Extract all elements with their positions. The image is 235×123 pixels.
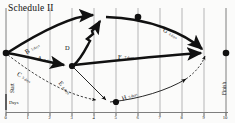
- node-day3: [69, 63, 75, 69]
- activity-duration-H: 5 days: [128, 92, 138, 99]
- activity-label-F: F7 days: [118, 46, 134, 62]
- axis-tick-4: 4: [93, 116, 95, 121]
- axis-tick-8: 8: [181, 116, 183, 121]
- activity-letter-H: H: [121, 93, 128, 101]
- activity-duration-G: 4 days: [168, 32, 178, 40]
- axis-tick-5: 5: [115, 116, 117, 121]
- activity-letter-A: A: [37, 54, 43, 62]
- axis-tick-3: 3: [71, 116, 73, 121]
- arrow-H-tail: [186, 56, 205, 79]
- finish-label: Finish: [222, 82, 227, 95]
- axis-tick-1: 1: [27, 116, 29, 121]
- start-label: Start: [10, 83, 15, 93]
- schedule-diagram: Schedule II A3 days B5 days C5 days D 4 …: [0, 0, 235, 123]
- activity-letter-D: D: [65, 44, 70, 51]
- axis-tick-9: 9: [203, 116, 205, 121]
- activity-duration-E: 4 days: [61, 86, 70, 96]
- diagram-title: Schedule II: [8, 4, 54, 14]
- node-day5: [113, 99, 119, 105]
- axis-title: Days: [9, 101, 18, 106]
- axis-tick-6: 6: [137, 116, 139, 121]
- axis-tick-10: 10: [223, 116, 228, 121]
- activity-duration-F: 7 days: [125, 56, 134, 60]
- axis-tick-2: 2: [49, 116, 51, 121]
- activity-duration-C: 5 days: [21, 76, 31, 84]
- node-start: [3, 50, 10, 57]
- arrow-G: [106, 17, 202, 49]
- axis-tick-0: 0: [5, 116, 7, 121]
- activity-label-D: D: [65, 37, 70, 53]
- arrow-A: [7, 53, 64, 65]
- axis-tick-7: 7: [159, 116, 161, 121]
- node-day6: [135, 14, 142, 21]
- node-finish: [223, 50, 230, 57]
- activity-duration-A: 3 days: [43, 58, 53, 64]
- activity-letter-F: F: [118, 53, 122, 60]
